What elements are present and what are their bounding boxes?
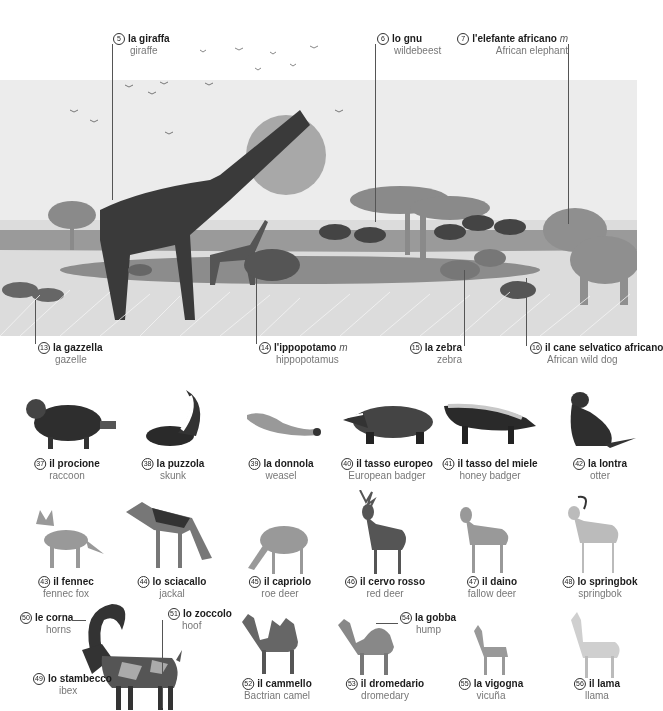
jackal-illustration: [122, 498, 227, 573]
caption-fallow-deer: 47il dainofallow deer: [467, 576, 517, 600]
wild-dog-leader-line: [526, 278, 527, 346]
hoof-leader-line: [162, 620, 163, 708]
red-deer-illustration: [352, 490, 417, 575]
label-zebra: 15la zebra zebra: [410, 342, 462, 366]
caption-weasel: 39la donnolaweasel: [249, 458, 314, 482]
roe-deer-illustration: [244, 520, 314, 575]
hump-leader-line: [376, 623, 398, 624]
label-giraffe: 5la giraffa giraffe: [113, 33, 170, 57]
skunk-illustration: [138, 388, 208, 453]
label-hippopotamus: 14l'ippopotamo m hippopotamus: [259, 342, 348, 366]
fallow-deer-illustration: [456, 505, 521, 575]
label-african-wild-dog: 16il cane selvatico africano African wil…: [530, 342, 663, 366]
savanna-illustration: [0, 80, 637, 336]
caption-fennec-fox: 43il fennecfennec fox: [38, 576, 94, 600]
vicuna-illustration: [470, 625, 515, 677]
otter-illustration: [560, 390, 640, 450]
caption-honey-badger: 41il tasso del mielehoney badger: [442, 458, 537, 482]
fennec-fox-illustration: [30, 510, 105, 570]
honey-badger-illustration: [440, 400, 540, 450]
caption-vicuna: 55la vigognavicuña: [459, 678, 523, 702]
giraffe-leader-line: [112, 44, 113, 200]
hippo-leader-line: [256, 262, 257, 344]
elephant-leader-line: [568, 44, 569, 224]
caption-european-badger: 40il tasso europeoEuropean badger: [341, 458, 433, 482]
bactrian-camel-illustration: [238, 610, 318, 675]
label-horns: 50le corna horns: [20, 612, 73, 636]
label-gazelle: 13la gazzella gazelle: [38, 342, 102, 366]
label-hoof: 51lo zoccolo hoof: [168, 608, 232, 632]
hippopotamus: [244, 249, 300, 281]
caption-dromedary: 53il dromedariodromedary: [346, 678, 424, 702]
caption-jackal: 44lo sciacallojackal: [138, 576, 207, 600]
label-hump: 54la gobba hump: [400, 612, 456, 636]
caption-otter: 42la lontraotter: [573, 458, 627, 482]
caption-llama: 56il lamallama: [574, 678, 620, 702]
caption-raccoon: 37il procioneraccoon: [34, 458, 100, 482]
caption-skunk: 38la puzzolaskunk: [142, 458, 205, 482]
springbok-illustration: [560, 495, 625, 575]
zebra-leader-line: [464, 270, 465, 346]
llama-illustration: [565, 612, 625, 680]
raccoon-illustration: [18, 393, 118, 453]
birds-above: [180, 40, 380, 80]
caption-roe-deer: 45il caprioloroe deer: [249, 576, 311, 600]
gazelle-leader-line: [35, 300, 36, 344]
wildebeest-leader-line: [375, 44, 376, 222]
label-elephant: 7l'elefante africano m African elephant: [457, 33, 568, 57]
european-badger-illustration: [338, 400, 434, 450]
caption-springbok: 48lo springbokspringbok: [563, 576, 638, 600]
caption-bactrian-camel: 52il cammelloBactrian camel: [242, 678, 311, 702]
caption-red-deer: 46il cervo rossored deer: [345, 576, 425, 600]
horns-leader-line: [72, 620, 86, 621]
label-wildebeest: 6lo gnu wildebeest: [377, 33, 441, 57]
label-ibex: 49lo stambecco ibex: [33, 673, 112, 697]
weasel-illustration: [243, 405, 323, 445]
